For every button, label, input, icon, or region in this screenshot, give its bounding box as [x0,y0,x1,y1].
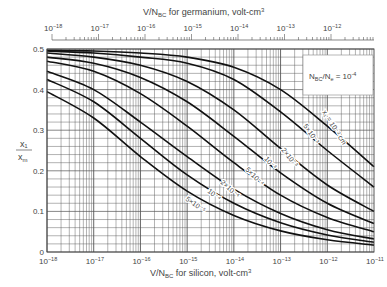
x-tick-label: 10−15 [179,256,197,266]
svg-text:xm: xm [18,152,28,163]
y-tick-label: 0 [40,248,45,257]
curve-labels: x₁ = 10⁻² cm5×10⁻³2×10⁻³10⁻³5×10⁻⁴2×10⁻⁴… [184,109,348,214]
x2-tick-label: 10−14 [230,23,248,33]
x2-tick-label: 10−12 [323,23,341,33]
y-axis-label: x₁ xm [16,139,32,163]
y-tick-label: 0.5 [33,45,45,54]
x2-tick-label: 10−18 [44,23,62,33]
x2-tick-label: 10−13 [277,23,295,33]
x-tick-label: 10−11 [366,256,384,266]
x2-tick-label: 10−15 [184,23,202,33]
svg-text:x₁: x₁ [20,139,28,149]
y-tick-label: 0.4 [33,86,45,95]
curve-label: 5×10⁻³ [302,123,321,146]
x-tick-label: 10−14 [226,256,244,266]
chart-container: x₁ = 10⁻² cm5×10⁻³2×10⁻³10⁻³5×10⁻⁴2×10⁻⁴… [0,0,387,287]
depletion-ratio-chart: x₁ = 10⁻² cm5×10⁻³2×10⁻³10⁻³5×10⁻⁴2×10⁻⁴… [0,0,387,287]
y-tick-label: 0.2 [33,167,45,176]
x-tick-label: 10−17 [86,256,104,266]
top-axis-title: V/NBC for germanium, volt-cm3 [143,7,265,18]
y-tick-label: 0.3 [33,126,45,135]
curve-label: 2×10⁻³ [280,146,300,168]
x-tick-label: 10−12 [319,256,337,266]
y-tick-label: 0.1 [33,207,45,216]
x2-tick-label: 10−17 [91,23,109,33]
bottom-axis-title: V/NBC for silicon, volt-cm3 [150,268,252,279]
x-tick-label: 10−13 [273,256,291,266]
x-tick-label: 10−16 [132,256,150,266]
x-tick-label: 10−18 [39,256,57,266]
x2-tick-label: 10−16 [137,23,155,33]
